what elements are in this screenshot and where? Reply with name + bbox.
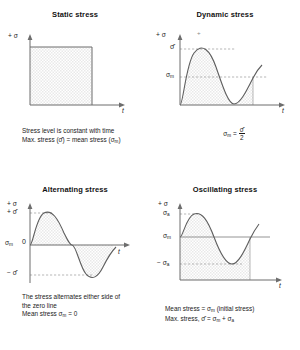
oscillating-y-axis-arrow	[178, 203, 183, 209]
caption-alternating-line3: Mean stress σm = 0	[22, 310, 150, 320]
panel-title-static: Static stress	[0, 10, 150, 19]
alternating-y-axis-label: + σ	[7, 200, 17, 207]
oscillating-mean-label-sub: m	[167, 235, 171, 240]
panel-dynamic-stress: Dynamic stress	[150, 0, 300, 175]
dynamic-y-axis-label: + σ	[156, 31, 166, 38]
caption-static-line1: Stress level is constant with time	[22, 127, 150, 136]
chart-oscillating-stress: + σ σa σm − σa t	[150, 197, 300, 292]
dynamic-formula-fraction: σ̂ 2	[239, 127, 245, 142]
static-y-axis-arrow	[28, 34, 33, 40]
dynamic-fill-region	[180, 48, 253, 105]
dynamic-formula-equals: =	[233, 130, 237, 139]
caption-alternating-line3-b: = 0	[66, 310, 77, 317]
caption-alternating-line2: the zero line	[22, 302, 150, 311]
dynamic-formula: σm = σ̂ 2	[168, 127, 300, 142]
alternating-mean-label: σm	[5, 239, 13, 246]
oscillating-x-axis-label: t	[279, 282, 281, 289]
static-fill-region	[30, 47, 92, 105]
alternating-zero-label: 0	[22, 238, 26, 245]
oscillating-amp-label: σa	[163, 209, 170, 216]
dynamic-y-axis-arrow	[178, 34, 183, 40]
static-y-axis-label: + σ	[8, 32, 18, 39]
alternating-x-axis-label: t	[118, 248, 120, 255]
caption-alternating-line3-sub: m	[63, 313, 67, 318]
oscillating-mean-label: σm	[163, 232, 171, 239]
oscillating-neg-amp-label-sigma: − σ	[157, 259, 167, 266]
caption-oscillating-line1-a: Mean stress = σ	[165, 305, 211, 312]
caption-oscillating-line2-sub2: a	[231, 318, 234, 323]
caption-dynamic: σm = σ̂ 2	[168, 127, 300, 142]
caption-static-line2-b: )	[118, 136, 120, 143]
alternating-y-axis-arrow	[28, 203, 33, 209]
caption-oscillating-line2: Max. stress, σ̂ = σm + σa	[165, 315, 300, 325]
caption-static-line2-sub: m	[115, 139, 119, 144]
panel-title-oscillating: Oscillating stress	[150, 185, 300, 194]
caption-oscillating-line1-sub: m	[211, 308, 215, 313]
caption-static: Stress level is constant with time Max. …	[22, 127, 150, 145]
chart-static-stress: + σ t	[0, 22, 150, 117]
caption-oscillating-line2-sub1: m	[216, 318, 220, 323]
dynamic-x-axis-label: t	[282, 107, 284, 114]
caption-oscillating-line2-mid: + σ	[220, 315, 231, 322]
alternating-peak-label: + σ̂	[7, 208, 17, 215]
dynamic-mean-label: σm	[166, 71, 174, 78]
caption-oscillating: Mean stress = σm (initial stress) Max. s…	[165, 305, 300, 324]
figure-sheet: Static stress	[0, 0, 300, 350]
chart-dynamic-stress: + σ + σ̂ σm t	[150, 22, 300, 117]
caption-static-line2: Max. stress (σ̂) = mean stress (σm)	[22, 136, 150, 146]
chart-alternating-stress: + σ + σ̂ σm 0 − σ̂ t	[0, 197, 150, 292]
oscillating-neg-amp-label: − σa	[157, 259, 169, 266]
panel-alternating-stress: Alternating stress	[0, 175, 150, 350]
dynamic-formula-lhs: σm	[223, 130, 231, 140]
dynamic-formula-denominator: 2	[239, 134, 245, 141]
static-x-axis-label: t	[122, 107, 124, 114]
caption-alternating-line1: The stress alternates either side of	[22, 293, 150, 302]
panel-title-dynamic: Dynamic stress	[150, 10, 300, 19]
oscillating-amp-label-sub: a	[167, 212, 170, 217]
panel-oscillating-stress: Oscillating stress	[150, 175, 300, 350]
panel-static-stress: Static stress	[0, 0, 150, 175]
oscillating-y-axis-label: + σ	[158, 200, 168, 207]
caption-alternating-line3-a: Mean stress σ	[22, 310, 63, 317]
caption-oscillating-line1-b: (initial stress)	[215, 305, 254, 312]
dynamic-plus-mark: +	[197, 29, 201, 36]
alternating-negative-fill	[72, 245, 113, 278]
alternating-mean-label-sub: m	[9, 242, 13, 247]
panel-title-alternating: Alternating stress	[0, 185, 150, 194]
dynamic-peak-label: σ̂	[170, 43, 174, 50]
caption-oscillating-line2-a: Max. stress, σ̂ = σ	[165, 315, 216, 322]
alternating-x-axis-arrow	[124, 243, 130, 248]
caption-alternating: The stress alternates either side of the…	[22, 293, 150, 320]
dynamic-formula-lhs-sub: m	[227, 133, 231, 138]
caption-oscillating-line1: Mean stress = σm (initial stress)	[165, 305, 300, 315]
caption-static-line2-a: Max. stress (σ̂) = mean stress (σ	[22, 136, 115, 143]
oscillating-fill-region	[180, 213, 250, 280]
dynamic-mean-label-sub: m	[170, 74, 174, 79]
alternating-trough-label: − σ̂	[7, 269, 17, 276]
